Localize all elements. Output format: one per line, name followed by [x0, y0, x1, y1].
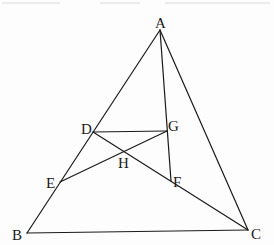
point-label-F: F: [173, 174, 181, 190]
point-labels: ABCDEGFH: [12, 15, 261, 243]
segment-DG: [93, 131, 167, 132]
point-label-B: B: [12, 227, 22, 243]
point-label-H: H: [118, 155, 129, 171]
segment-EG: [60, 131, 167, 182]
segment-BC: [27, 230, 248, 233]
geometry-diagram: ABCDEGFH: [0, 0, 274, 245]
point-label-D: D: [81, 121, 92, 137]
point-label-C: C: [251, 226, 261, 242]
point-label-G: G: [168, 118, 179, 134]
point-label-E: E: [46, 175, 55, 191]
segment-DC: [93, 132, 248, 230]
point-label-A: A: [155, 15, 166, 31]
triangle-figure: ABCDEGFH: [0, 0, 274, 245]
segments: [27, 30, 248, 233]
